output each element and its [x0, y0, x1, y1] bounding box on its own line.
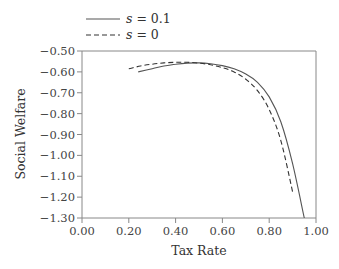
x-tick: 0.40 — [163, 218, 189, 238]
y-tick-label: −0.80 — [40, 107, 75, 121]
y-tick-label: −0.90 — [40, 128, 75, 142]
legend-label: s = 0 — [126, 27, 159, 42]
y-tick-label: −0.70 — [40, 86, 75, 100]
y-axis-ticks: −0.50−0.60−0.70−0.80−0.90−1.00−1.10−1.20… — [40, 44, 82, 225]
y-tick-label: −1.20 — [40, 190, 75, 204]
y-tick: −1.00 — [40, 148, 82, 162]
legend-item-solid: s = 0.1 — [86, 11, 171, 26]
series-group — [129, 62, 304, 218]
x-tick-label: 0.20 — [116, 224, 142, 238]
y-tick: −1.20 — [40, 190, 82, 204]
x-tick-label: 0.60 — [210, 224, 236, 238]
series-line-s-0-1 — [138, 63, 304, 218]
x-tick: 1.00 — [303, 218, 329, 238]
y-tick-label: −0.50 — [40, 44, 75, 58]
x-tick-label: 0.00 — [69, 224, 95, 238]
x-axis-title: Tax Rate — [171, 243, 226, 258]
y-tick: −1.10 — [40, 169, 82, 183]
y-tick-label: −1.10 — [40, 169, 75, 183]
y-axis-title: Social Welfare — [13, 88, 28, 179]
y-tick-label: −1.30 — [40, 211, 75, 225]
x-axis-ticks: 0.000.200.400.600.801.00 — [69, 218, 329, 238]
y-tick: −0.60 — [40, 65, 82, 79]
series-line-s-0 — [129, 62, 293, 192]
y-tick: −0.90 — [40, 128, 82, 142]
x-tick-label: 0.80 — [256, 224, 282, 238]
legend-label: s = 0.1 — [126, 11, 171, 26]
y-tick: −0.80 — [40, 107, 82, 121]
plot-frame — [82, 51, 316, 218]
x-tick-label: 1.00 — [303, 224, 329, 238]
line-chart: s = 0.1 s = 0 −0.50−0.60−0.70−0.80−0.90−… — [0, 0, 339, 269]
y-tick-label: −1.00 — [40, 148, 75, 162]
y-tick: −0.50 — [40, 44, 82, 58]
y-tick-label: −0.60 — [40, 65, 75, 79]
x-tick-label: 0.40 — [163, 224, 189, 238]
x-tick: 0.60 — [210, 218, 236, 238]
legend-item-dashed: s = 0 — [86, 27, 159, 42]
x-tick: 0.80 — [256, 218, 282, 238]
y-tick: −1.30 — [40, 211, 82, 225]
legend: s = 0.1 s = 0 — [86, 11, 171, 42]
y-tick: −0.70 — [40, 86, 82, 100]
x-tick: 0.20 — [116, 218, 142, 238]
